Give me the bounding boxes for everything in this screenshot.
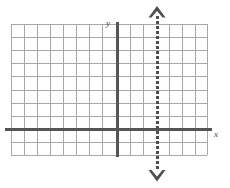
x-axis-label: x bbox=[213, 129, 218, 139]
grid-vertical-lines bbox=[12, 24, 208, 155]
grid-horizontal-lines bbox=[11, 25, 207, 156]
y-axis-label: y bbox=[105, 18, 110, 28]
graph-canvas: y x bbox=[0, 0, 230, 188]
chevron-down-arrowhead bbox=[149, 170, 166, 182]
coordinate-graph-figure: y x bbox=[0, 0, 230, 188]
chevron-up-arrowhead bbox=[149, 6, 166, 18]
